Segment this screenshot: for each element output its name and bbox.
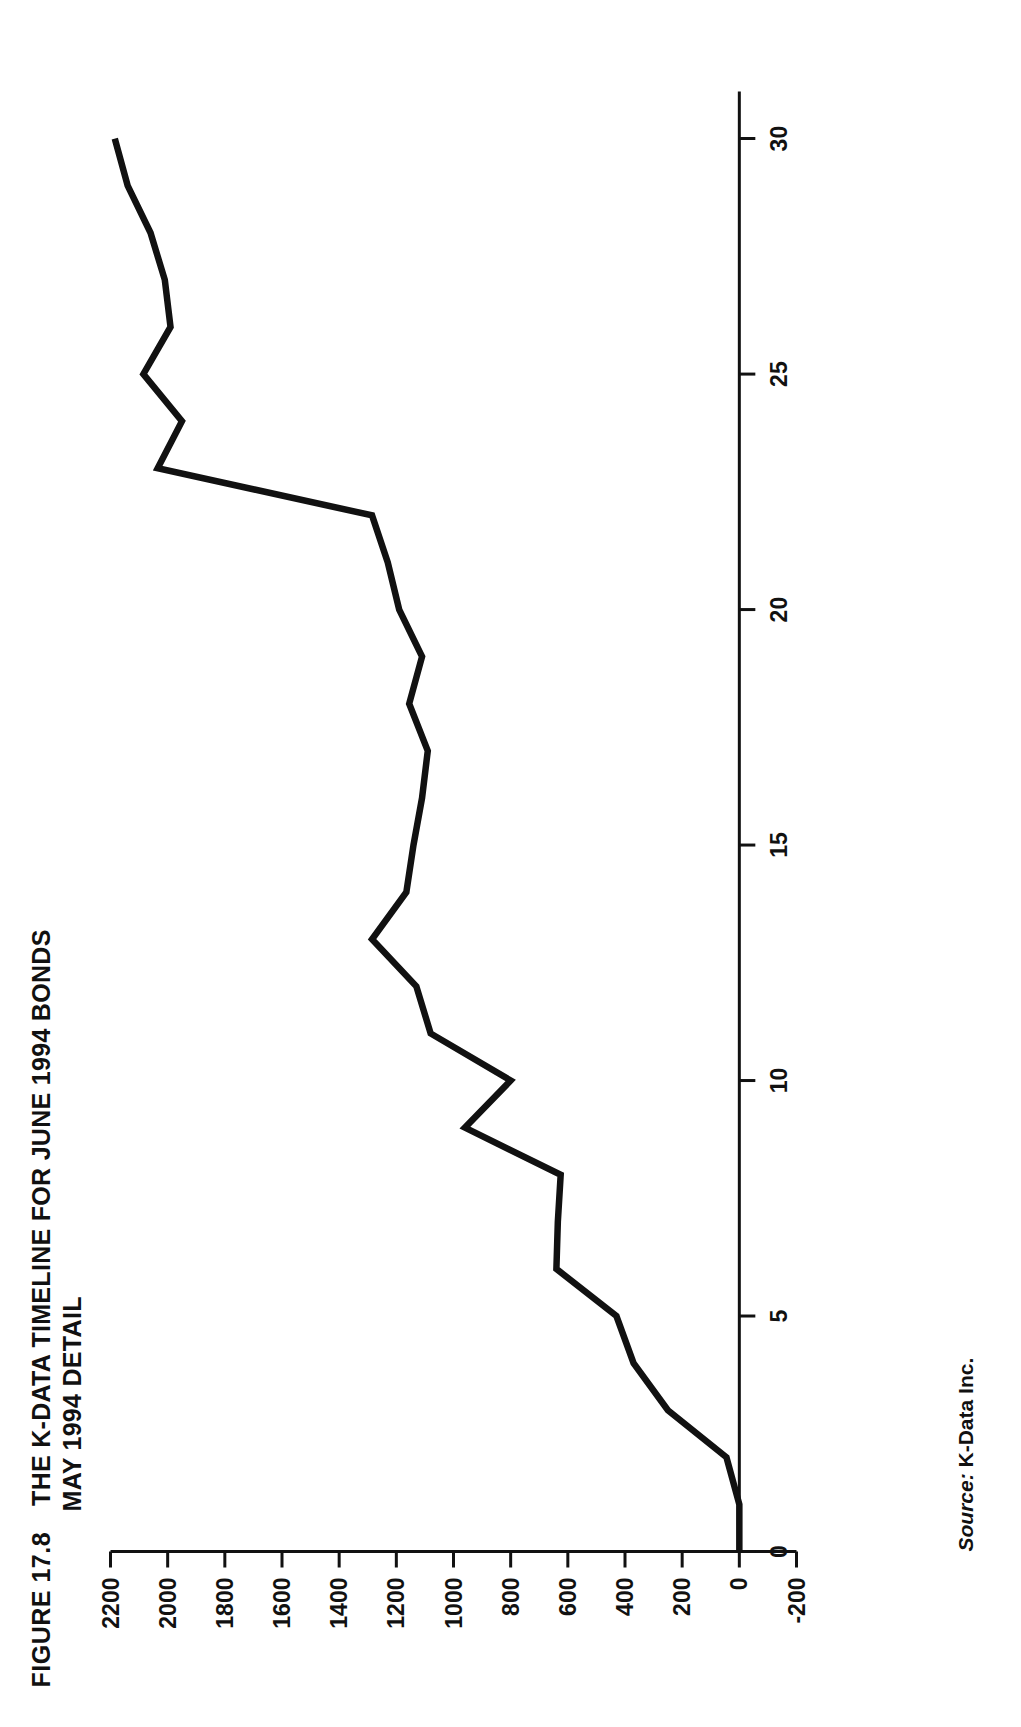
svg-text:1400: 1400 — [326, 1577, 352, 1628]
svg-text:800: 800 — [497, 1577, 523, 1615]
figure-label: FIGURE 17.8 — [26, 1531, 55, 1687]
figure-subtitle: MAY 1994 DETAIL — [57, 107, 86, 1511]
svg-text:25: 25 — [766, 361, 792, 387]
svg-text:2000: 2000 — [154, 1577, 180, 1628]
svg-text:400: 400 — [612, 1577, 638, 1615]
x-axis — [739, 91, 755, 1551]
figure-caption: FIGURE 17.8 THE K-DATA TIMELINE FOR JUNE… — [26, 107, 86, 1687]
svg-text:600: 600 — [554, 1577, 580, 1615]
line-chart: -200020040060080010001200140016001800200… — [96, 87, 936, 1687]
x-tick-labels: 051015202530 — [766, 125, 792, 1557]
svg-text:5: 5 — [766, 1309, 792, 1322]
svg-text:1600: 1600 — [269, 1577, 295, 1628]
svg-text:15: 15 — [766, 832, 792, 858]
page-title: THE K-DATA TIMELINE FOR JUNE 1994 BONDS — [26, 929, 55, 1506]
y-axis — [110, 1551, 796, 1567]
caption-line-1: FIGURE 17.8 THE K-DATA TIMELINE FOR JUNE… — [26, 107, 55, 1687]
chart-plot-area: -200020040060080010001200140016001800200… — [96, 87, 936, 1687]
svg-text:10: 10 — [766, 1067, 792, 1093]
rotated-figure-plate: FIGURE 17.8 THE K-DATA TIMELINE FOR JUNE… — [0, 0, 1021, 1727]
data-series — [114, 138, 739, 1551]
svg-text:20: 20 — [766, 596, 792, 622]
svg-text:200: 200 — [669, 1577, 695, 1615]
source-value: K-Data Inc. — [953, 1357, 976, 1467]
svg-text:-200: -200 — [783, 1577, 809, 1623]
svg-text:0: 0 — [766, 1545, 792, 1558]
source-note: Source: K-Data Inc. — [953, 1357, 977, 1551]
svg-text:1200: 1200 — [383, 1577, 409, 1628]
svg-text:30: 30 — [766, 125, 792, 151]
source-label: Source: — [953, 1473, 976, 1551]
svg-text:2200: 2200 — [97, 1577, 123, 1628]
svg-text:1000: 1000 — [440, 1577, 466, 1628]
figure-plate: FIGURE 17.8 THE K-DATA TIMELINE FOR JUNE… — [0, 0, 1021, 1727]
y-tick-labels: -200020040060080010001200140016001800200… — [97, 1577, 809, 1628]
svg-text:1800: 1800 — [211, 1577, 237, 1628]
svg-text:0: 0 — [726, 1577, 752, 1590]
